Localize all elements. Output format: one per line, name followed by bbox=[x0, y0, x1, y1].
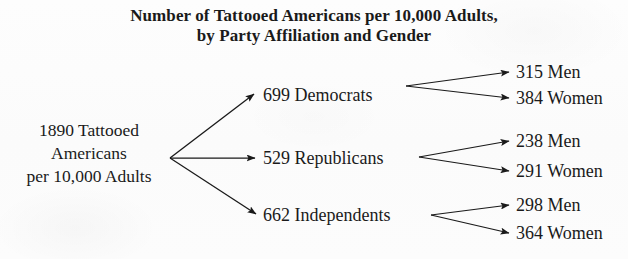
edge-democrats-to-women bbox=[406, 86, 509, 98]
tree-diagram-figure: Number of Tattooed Americans per 10,000 … bbox=[0, 0, 628, 259]
leaf-node-independents-men: 298 Men bbox=[516, 195, 581, 216]
leaf-node-democrats-women: 384 Women bbox=[516, 88, 603, 109]
branch-node-independents: 662 Independents bbox=[263, 205, 390, 226]
root-node-line-3: per 10,000 Adults bbox=[8, 165, 170, 188]
edge-independents-to-men bbox=[431, 205, 509, 215]
root-node-line-1: 1890 Tattooed bbox=[8, 119, 170, 142]
edge-republicans-to-men bbox=[419, 141, 509, 157]
edge-root-to-independents bbox=[170, 158, 256, 214]
edge-republicans-to-women bbox=[419, 157, 509, 171]
branch-node-democrats: 699 Democrats bbox=[263, 85, 372, 106]
leaf-node-democrats-men: 315 Men bbox=[516, 62, 581, 83]
edge-independents-to-women bbox=[431, 215, 509, 233]
leaf-node-independents-women: 364 Women bbox=[516, 223, 603, 244]
branch-node-republicans: 529 Republicans bbox=[263, 148, 383, 169]
edge-root-to-democrats bbox=[170, 94, 254, 158]
root-node-line-2: Americans bbox=[8, 142, 170, 165]
edge-democrats-to-men bbox=[406, 72, 509, 86]
leaf-node-republicans-men: 238 Men bbox=[516, 131, 581, 152]
root-node-total: 1890 Tattooed Americans per 10,000 Adult… bbox=[8, 119, 170, 188]
leaf-node-republicans-women: 291 Women bbox=[516, 161, 603, 182]
